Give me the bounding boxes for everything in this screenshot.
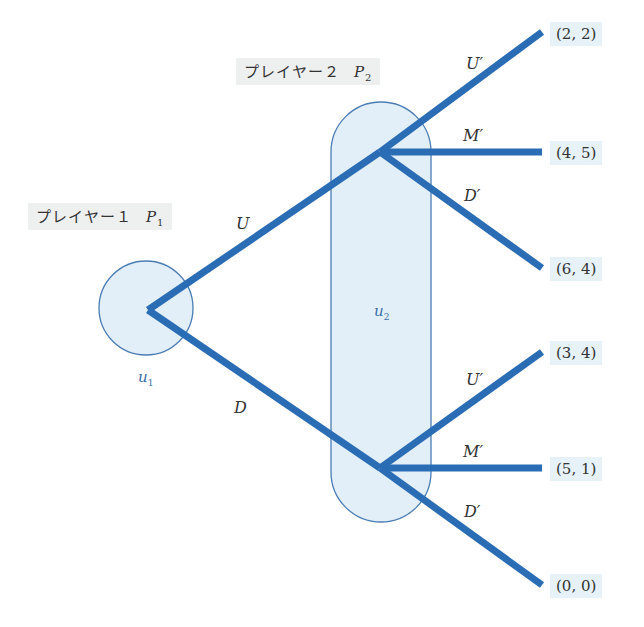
payoff-1: (2, 2)	[550, 22, 602, 46]
action-lower-U-prime-label: U′	[466, 370, 483, 389]
infoset-u1-label: u1	[138, 368, 153, 388]
player-2-symbol: P2	[354, 63, 372, 81]
player-1-label: プレイヤー１P1	[28, 203, 172, 230]
player-1-symbol: P1	[146, 208, 164, 226]
payoff-5: (5, 1)	[550, 457, 602, 481]
player-1-name: プレイヤー１	[36, 208, 132, 226]
action-upper-D-prime-label: D′	[464, 186, 480, 205]
player-2-name: プレイヤー２	[244, 63, 340, 81]
action-D-label: D	[234, 398, 247, 417]
action-lower-M-prime-label: M′	[463, 442, 483, 461]
action-lower-D-prime-label: D′	[464, 502, 480, 521]
action-U-label: U	[236, 214, 249, 233]
payoff-3: (6, 4)	[550, 257, 602, 281]
edge-lower-D-prime	[380, 468, 542, 585]
infoset-u1-circle	[99, 261, 193, 355]
payoff-2: (4, 5)	[550, 141, 602, 165]
payoff-4: (3, 4)	[550, 341, 602, 365]
game-tree	[0, 0, 644, 627]
action-upper-M-prime-label: M′	[463, 126, 483, 145]
action-upper-U-prime-label: U′	[466, 54, 483, 73]
edge-upper-U-prime	[380, 32, 542, 152]
payoff-6: (0, 0)	[550, 574, 602, 598]
infoset-u2-label: u2	[374, 302, 389, 322]
player-2-label: プレイヤー２P2	[236, 58, 380, 85]
